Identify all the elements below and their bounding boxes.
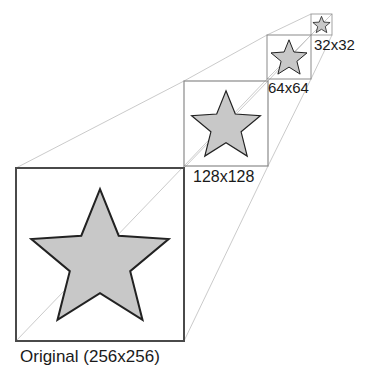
- label-64: 64x64: [268, 80, 309, 95]
- label-32: 32x32: [314, 37, 355, 52]
- label-original: Original (256x256): [20, 348, 160, 365]
- label-128: 128x128: [193, 169, 254, 185]
- pyramid-canvas: [0, 0, 375, 386]
- connector-line: [16, 81, 184, 168]
- level-boxes: [16, 14, 332, 341]
- image-pyramid-diagram: Original (256x256) 128x128 64x64 32x32: [0, 0, 375, 386]
- level-32: [311, 14, 332, 35]
- level-original: [16, 168, 184, 341]
- connector-line: [267, 14, 311, 35]
- level-64: [267, 35, 311, 79]
- level-128: [184, 81, 268, 166]
- connector-line: [184, 166, 268, 341]
- connector-line: [184, 35, 267, 81]
